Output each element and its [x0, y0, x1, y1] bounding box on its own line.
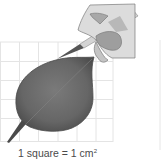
scale-caption-text: 1 square = 1 cm — [18, 147, 94, 159]
thumb — [96, 32, 122, 51]
scale-caption-superscript: 2 — [94, 148, 97, 154]
leaf-tracing-illustration — [0, 0, 162, 160]
hand — [78, 4, 135, 62]
hand-back — [78, 4, 135, 58]
scale-caption: 1 square = 1 cm2 — [0, 145, 115, 160]
leaf — [7, 57, 94, 143]
leaf-stem — [7, 120, 26, 143]
